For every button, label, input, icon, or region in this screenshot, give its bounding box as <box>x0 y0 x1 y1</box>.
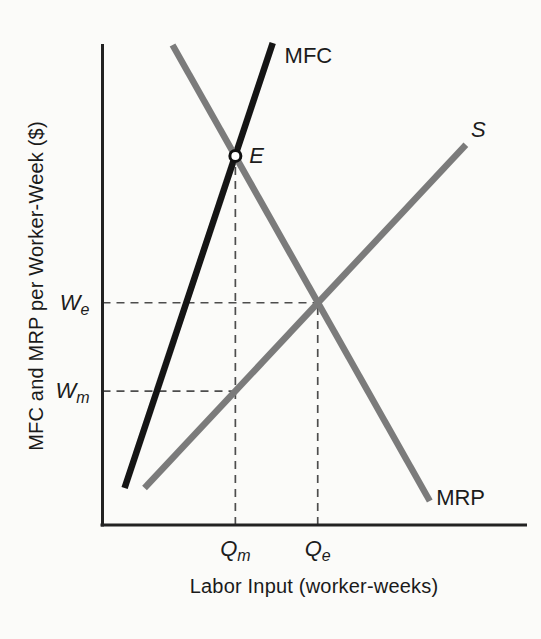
point-label-E: E <box>249 143 264 168</box>
mfc-curve <box>125 43 273 488</box>
y-axis-title: MFC and MRP per Worker-Week ($) <box>25 121 48 451</box>
chart-canvas: E MFCSMRP WeWmQmQe <box>0 0 541 639</box>
mrp-curve-label: MRP <box>436 485 485 510</box>
mrp-curve <box>173 45 430 501</box>
point-marker-E <box>230 150 241 161</box>
s-curve-label: S <box>471 117 486 142</box>
axes <box>101 44 528 527</box>
curve-labels: MFCSMRP <box>285 43 486 511</box>
s-curve <box>145 145 466 488</box>
monopsony-labor-market-figure: E MFCSMRP WeWmQmQe MFC and MRP per Worke… <box>0 0 541 639</box>
curves <box>125 43 466 501</box>
axis-value-label-we: We <box>60 290 90 318</box>
mfc-curve-label: MFC <box>285 43 333 68</box>
axis-value-label-qm: Qm <box>220 536 250 564</box>
x-axis-title: Labor Input (worker-weeks) <box>190 575 439 598</box>
axis-value-label-qe: Qe <box>305 536 331 564</box>
axis-value-label-wm: Wm <box>55 378 89 406</box>
